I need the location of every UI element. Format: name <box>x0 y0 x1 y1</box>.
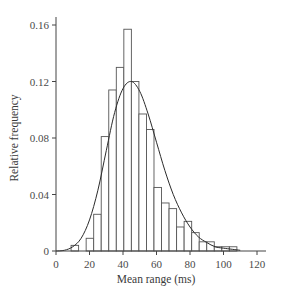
x-axis-title: Mean range (ms) <box>117 273 196 286</box>
histogram-bars <box>71 29 237 251</box>
histogram-bar <box>184 221 192 251</box>
y-tick-label: 0.08 <box>30 132 50 144</box>
histogram-bar <box>94 214 102 251</box>
histogram-bar <box>139 114 147 251</box>
histogram-bar <box>177 227 185 251</box>
histogram-bar <box>162 203 170 251</box>
x-tick-label: 20 <box>84 258 96 270</box>
histogram-bar <box>146 130 154 251</box>
histogram-bar <box>71 245 79 251</box>
y-axis-title: Relative frequency <box>8 94 21 181</box>
histogram-chart: 02040608010012000.040.080.120.16 Mean ra… <box>0 0 281 300</box>
y-tick-label: 0 <box>44 245 50 257</box>
histogram-bar <box>109 90 117 251</box>
histogram-bar <box>192 233 200 251</box>
histogram-bar <box>124 29 132 251</box>
y-tick-label: 0.04 <box>30 189 50 201</box>
histogram-bar <box>86 238 94 251</box>
x-tick-label: 60 <box>151 258 163 270</box>
x-tick-label: 100 <box>215 258 232 270</box>
histogram-bar <box>154 187 162 251</box>
histogram-bar <box>101 137 109 251</box>
histogram-bar <box>131 82 139 252</box>
x-tick-label: 120 <box>249 258 266 270</box>
y-tick-label: 0.16 <box>30 19 50 31</box>
histogram-bar <box>169 209 177 251</box>
histogram-bar <box>199 242 207 251</box>
x-tick-label: 0 <box>53 258 59 270</box>
x-tick-label: 80 <box>185 258 197 270</box>
y-tick-label: 0.12 <box>30 76 49 88</box>
x-tick-label: 40 <box>118 258 130 270</box>
